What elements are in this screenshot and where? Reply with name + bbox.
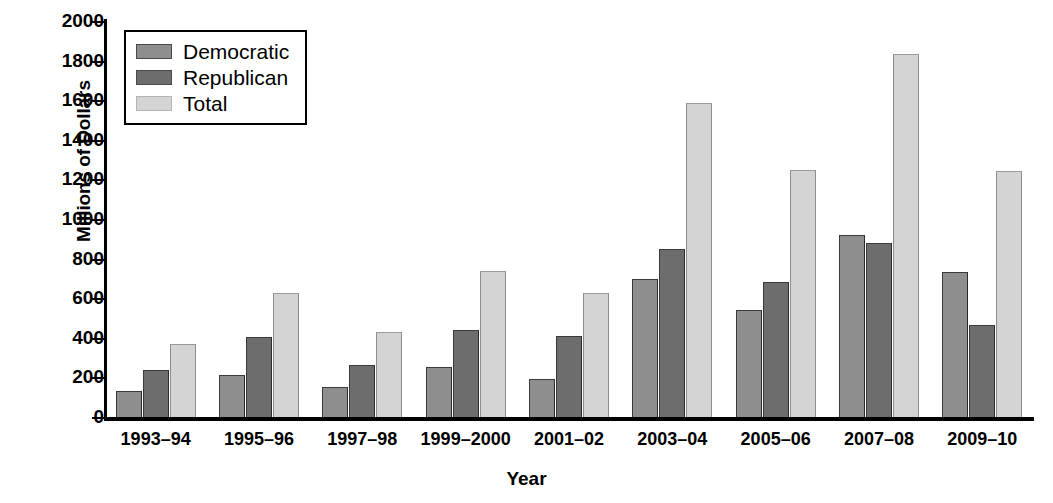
- bar-total-2001-02: [583, 293, 609, 417]
- bar-group: [426, 21, 507, 417]
- bar-democratic-1993-94: [116, 391, 142, 417]
- bar-total-1999-2000: [480, 271, 506, 417]
- bar-total-2009-10: [996, 171, 1022, 417]
- bar-republican-1995-96: [246, 337, 272, 417]
- bar-total-2005-06: [790, 170, 816, 418]
- legend-item-republican: Republican: [136, 64, 289, 90]
- x-axis-title: Year: [0, 468, 1053, 490]
- legend: DemocraticRepublicanTotal: [124, 30, 307, 125]
- legend-item-total: Total: [136, 90, 289, 116]
- bar-total-1995-96: [273, 293, 299, 417]
- bar-republican-2005-06: [763, 282, 789, 417]
- bar-total-1997-98: [376, 332, 402, 417]
- bar-democratic-1995-96: [219, 375, 245, 417]
- bar-group: [529, 21, 610, 417]
- legend-label: Republican: [183, 67, 288, 88]
- bar-republican-2003-04: [659, 249, 685, 417]
- cropped-caption-strip: [0, 0, 1053, 12]
- bar-total-2003-04: [686, 103, 712, 417]
- bar-republican-2007-08: [866, 243, 892, 417]
- bar-republican-2009-10: [969, 325, 995, 417]
- bar-democratic-2003-04: [632, 279, 658, 417]
- bar-democratic-2005-06: [736, 310, 762, 417]
- bar-democratic-2001-02: [529, 379, 555, 417]
- bar-democratic-2007-08: [839, 235, 865, 417]
- legend-item-democratic: Democratic: [136, 38, 289, 64]
- bar-republican-1997-98: [349, 365, 375, 417]
- bar-group: [839, 21, 920, 417]
- x-axis-line: [104, 417, 1034, 421]
- bar-democratic-1997-98: [322, 387, 348, 417]
- bar-democratic-1999-2000: [426, 367, 452, 417]
- bar-group: [322, 21, 403, 417]
- bar-total-2007-08: [893, 54, 919, 417]
- bar-group: [942, 21, 1023, 417]
- x-tick-label: 2009–10: [912, 429, 1052, 450]
- y-tick-mark: [92, 417, 105, 419]
- legend-swatch-icon: [136, 70, 172, 85]
- legend-swatch-icon: [136, 96, 172, 111]
- bar-group: [632, 21, 713, 417]
- bar-republican-1993-94: [143, 370, 169, 417]
- legend-swatch-icon: [136, 44, 172, 59]
- bar-group: [736, 21, 817, 417]
- bar-republican-1999-2000: [453, 330, 479, 417]
- bar-total-1993-94: [170, 344, 196, 417]
- bar-republican-2001-02: [556, 336, 582, 417]
- legend-label: Total: [183, 93, 227, 114]
- bar-chart: Millions of Dollars 20001800160014001200…: [0, 0, 1053, 503]
- bar-democratic-2009-10: [942, 272, 968, 417]
- legend-label: Democratic: [183, 41, 289, 62]
